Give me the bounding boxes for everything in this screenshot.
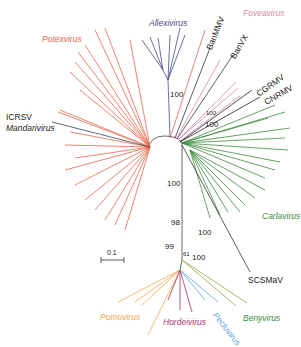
bootstrap-cgrmv-inner: 100: [206, 110, 216, 116]
bootstrap-pecluvirus: 100: [192, 254, 205, 262]
label-icrsv: ICRSV: [6, 113, 32, 122]
bootstrap-benyvirus: 100: [198, 229, 211, 237]
scale-bar-label: 0.1: [107, 249, 117, 256]
allexivirus-clade: [142, 28, 185, 137]
bootstrap-main-trunk: 100: [167, 180, 180, 188]
icrsv-branch: [52, 122, 150, 147]
label-mandarivirus: Mandarivirus: [6, 124, 55, 133]
label-foveavirus: Foveavirus: [243, 9, 285, 18]
bootstrap-allexi: 100: [170, 91, 183, 99]
bootstrap-pomovirus: 99: [165, 243, 174, 251]
bootstrap-98: 98: [171, 219, 180, 227]
bootstrap-hordeivirus: 61: [183, 251, 190, 257]
bootstrap-cgrmv-outer: 100: [205, 121, 218, 129]
label-carlavirus: Carlavirus: [262, 212, 300, 221]
label-scsmav: SCSMaV: [248, 276, 283, 285]
phylogenetic-tree: [0, 0, 301, 347]
label-allexivirus: Allexivirus: [149, 19, 187, 28]
label-benyvirus: Benyvirus: [243, 314, 280, 323]
label-pomovirus: Pomovirus: [100, 313, 140, 322]
label-potexvirus: Potexvirus: [42, 35, 82, 44]
label-hordeivirus: Hordeivirus: [163, 318, 206, 327]
carlavirus-clade: [182, 105, 290, 218]
